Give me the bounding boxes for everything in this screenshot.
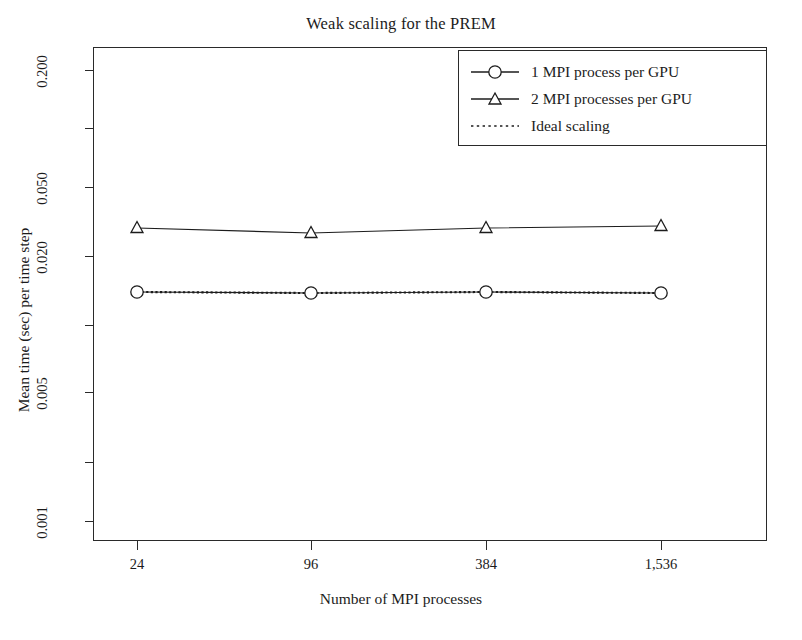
y-tick-text-1: 0.050	[34, 172, 51, 205]
x-tick-mark-1536	[661, 541, 662, 550]
y-axis-title: Mean time (sec) per time step	[0, 0, 54, 640]
circle-line-key-icon	[469, 61, 521, 83]
y-tick-mark-minor-3	[85, 462, 93, 463]
x-tick-mark-24	[137, 541, 138, 550]
y-tick-mark-minor-1	[85, 128, 93, 129]
y-tick-label-1: 0.050	[18, 175, 66, 201]
legend-label-2mpi: 2 MPI processes per GPU	[531, 90, 692, 108]
x-tick-label-3: 1,536	[621, 556, 701, 573]
y-tick-mark-0.001	[85, 521, 93, 522]
x-tick-label-1: 96	[271, 556, 351, 573]
x-axis-title: Number of MPI processes	[0, 590, 802, 608]
chart-figure: Weak scaling for the PREM Mean time (sec…	[0, 0, 802, 640]
x-tick-mark-384	[486, 541, 487, 550]
y-tick-text-2: 0.020	[34, 241, 51, 274]
y-tick-label-4: 0.001	[18, 509, 66, 535]
x-tick-label-0: 24	[97, 556, 177, 573]
y-tick-text-3: 0.005	[34, 377, 51, 410]
dotted-line-key-icon	[469, 115, 521, 137]
y-tick-mark-minor-2	[85, 325, 93, 326]
y-tick-label-2: 0.020	[18, 244, 66, 270]
y-tick-mark-0.020	[85, 256, 93, 257]
y-tick-mark-0.050	[85, 187, 93, 188]
y-tick-label-3: 0.005	[18, 380, 66, 406]
y-tick-mark-0.005	[85, 392, 93, 393]
legend-entry-1mpi: 1 MPI process per GPU	[469, 59, 679, 85]
y-tick-text-4: 0.001	[34, 506, 51, 539]
y-tick-label-0: 0.200	[18, 58, 66, 84]
y-tick-mark-0.200	[85, 70, 93, 71]
y-tick-text-0: 0.200	[34, 55, 51, 88]
legend-entry-ideal: Ideal scaling	[469, 113, 610, 139]
chart-title: Weak scaling for the PREM	[0, 14, 802, 34]
legend-label-1mpi: 1 MPI process per GPU	[531, 63, 679, 81]
triangle-line-key-icon	[469, 88, 521, 110]
x-tick-mark-96	[311, 541, 312, 550]
x-tick-label-2: 384	[446, 556, 526, 573]
legend-entry-2mpi: 2 MPI processes per GPU	[469, 86, 692, 112]
legend-label-ideal: Ideal scaling	[531, 117, 610, 135]
legend-box: 1 MPI process per GPU 2 MPI processes pe…	[458, 50, 767, 146]
